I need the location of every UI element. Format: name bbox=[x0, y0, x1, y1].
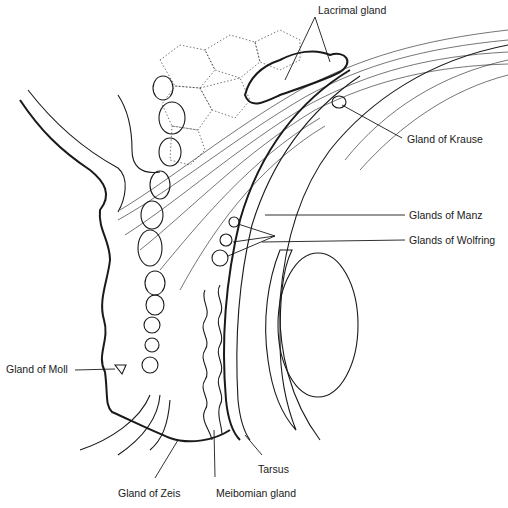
label-tarsus: Tarsus bbox=[258, 463, 289, 475]
label-meibomian-gland: Meibomian gland bbox=[216, 487, 296, 499]
label-gland-of-zeis: Gland of Zeis bbox=[118, 487, 180, 499]
label-glands-of-wolfring: Glands of Wolfring bbox=[409, 234, 495, 246]
conjunctiva-line bbox=[224, 70, 350, 440]
gland-of-wolfring-1 bbox=[220, 234, 232, 246]
meibomian-gland-shape bbox=[203, 290, 212, 440]
gland-of-moll bbox=[115, 365, 126, 374]
gland-of-wolfring-2 bbox=[212, 250, 228, 266]
label-glands-of-manz: Glands of Manz bbox=[409, 209, 483, 221]
lens bbox=[278, 253, 358, 397]
eyeball bbox=[266, 250, 358, 430]
orbital-septum bbox=[118, 95, 160, 173]
label-gland-of-krause: Gland of Krause bbox=[407, 133, 483, 145]
leader-lines bbox=[75, 17, 405, 478]
skin-contour bbox=[20, 100, 230, 441]
gland-of-manz bbox=[229, 217, 239, 227]
eyelashes bbox=[80, 395, 170, 455]
levator-fibers bbox=[118, 30, 508, 290]
eyelid-cross-section-illustration bbox=[0, 0, 508, 508]
orbital-fat bbox=[160, 30, 300, 165]
label-lacrimal-gland: Lacrimal gland bbox=[318, 4, 386, 16]
orbicularis-muscle bbox=[138, 76, 185, 373]
label-gland-of-moll: Gland of Moll bbox=[6, 363, 68, 375]
lacrimal-gland bbox=[245, 51, 347, 103]
eyelid-diagram: Lacrimal gland Gland of Krause Glands of… bbox=[0, 0, 508, 508]
